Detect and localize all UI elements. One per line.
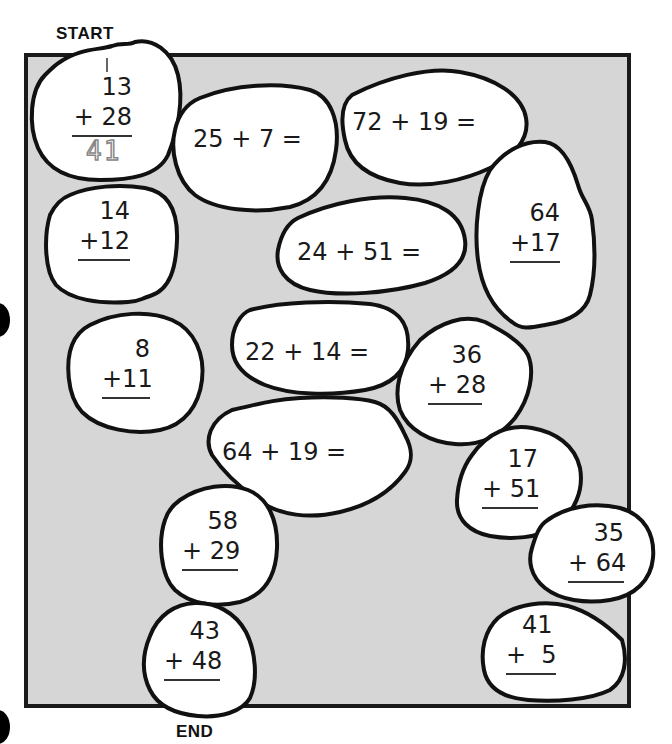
problem-64-plus-17: 64 +17 <box>510 198 560 263</box>
addend-top: 35 <box>568 518 624 548</box>
addend-top: 36 <box>428 340 482 370</box>
addend-bottom: + 28 <box>72 102 132 132</box>
problem-35-plus-64: 35 + 64 <box>568 518 624 583</box>
problem-22-plus-14: 22 + 14 = <box>245 340 369 364</box>
start-label: START <box>56 24 114 44</box>
addend-top: 13 <box>72 72 132 102</box>
problem-end-43-plus-48: 43 + 48 <box>164 616 220 681</box>
addend-top: 14 <box>78 196 130 226</box>
answer-rule <box>78 259 130 261</box>
addend-top: 43 <box>164 616 220 646</box>
problem-41-plus-5: 41 + 5 <box>506 610 556 675</box>
answer-rule <box>182 569 238 571</box>
problem-start: 13 + 28 <box>72 72 132 137</box>
addend-bottom: + 48 <box>164 646 220 676</box>
problem-24-plus-51: 24 + 51 = <box>297 240 421 264</box>
problem-8-plus-11: 8 +11 <box>102 334 150 399</box>
addend-bottom: +12 <box>78 226 130 256</box>
problem-58-plus-29: 58 + 29 <box>182 506 238 571</box>
addend-top: 64 <box>510 198 560 228</box>
traced-answer: 41 <box>86 136 121 166</box>
answer-rule <box>482 507 538 509</box>
addend-bottom: + 29 <box>182 536 238 566</box>
answer-rule <box>568 581 624 583</box>
addend-top: 17 <box>482 444 538 474</box>
addend-bottom: +11 <box>102 364 150 394</box>
addend-bottom: + 28 <box>428 370 482 400</box>
addend-bottom: + 51 <box>482 474 538 504</box>
answer-rule <box>506 673 556 675</box>
addend-bottom: + 64 <box>568 548 624 578</box>
answer-rule <box>428 403 482 405</box>
end-label: END <box>176 722 213 742</box>
problem-72-plus-19: 72 + 19 = <box>352 110 476 134</box>
addend-bottom: + 5 <box>506 640 556 670</box>
problem-14-plus-12: 14 +12 <box>78 196 130 261</box>
problem-17-plus-51: 17 + 51 <box>482 444 538 509</box>
answer-rule <box>102 397 150 399</box>
addend-top: 8 <box>102 334 150 364</box>
problem-64-plus-19: 64 + 19 = <box>222 440 346 464</box>
problem-25-plus-7: 25 + 7 = <box>193 127 302 151</box>
carry-mark <box>106 58 108 72</box>
problem-36-plus-28: 36 + 28 <box>428 340 482 405</box>
addend-bottom: +17 <box>510 228 560 258</box>
answer-rule <box>164 679 220 681</box>
addend-top: 58 <box>182 506 238 536</box>
answer-rule <box>510 261 560 263</box>
addend-top: 41 <box>506 610 556 640</box>
